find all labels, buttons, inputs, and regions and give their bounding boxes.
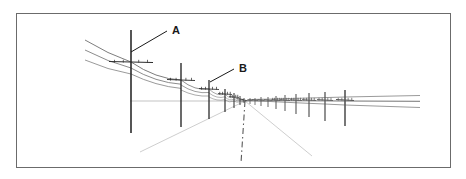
figure-drawing: A B [0,0,466,179]
figure-root: A B [0,0,466,179]
figure-background [0,0,466,179]
callout-label-b: B [239,62,247,74]
callout-label-a: A [172,24,180,36]
